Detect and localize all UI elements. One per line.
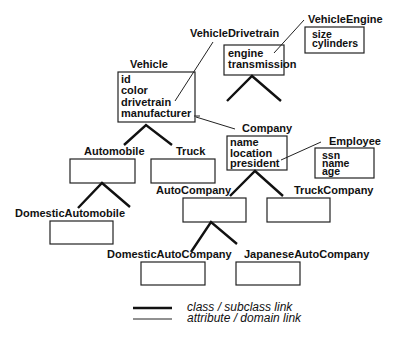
legend: class / subclass link attribute / domain… bbox=[133, 300, 302, 325]
class-label-auto-company: AutoCompany bbox=[156, 184, 232, 196]
subclass-link-automobile bbox=[78, 183, 130, 208]
class-vehicle: Vehicle id color drivetrain manufacturer bbox=[118, 58, 195, 122]
attr-president: president bbox=[230, 157, 280, 169]
class-truck: Truck bbox=[151, 145, 215, 183]
subclass-link-vehicle-drivetrain bbox=[227, 76, 281, 101]
class-box-japanese-auto-company bbox=[236, 262, 300, 285]
class-label-domestic-automobile: DomesticAutomobile bbox=[15, 207, 125, 219]
class-box-domestic-auto-company bbox=[141, 262, 205, 285]
attr-age: age bbox=[322, 165, 340, 177]
class-box-automobile bbox=[70, 159, 135, 183]
class-domestic-automobile: DomesticAutomobile bbox=[15, 207, 125, 244]
class-label-truck-company: TruckCompany bbox=[294, 184, 374, 196]
class-company: Company name location president bbox=[227, 122, 293, 170]
class-box-truck-company bbox=[267, 198, 330, 222]
attr-cylinders: cylinders bbox=[312, 37, 358, 49]
class-hierarchy-diagram: Vehicle id color drivetrain manufacturer… bbox=[0, 0, 399, 340]
class-label-vehicle-engine: VehicleEngine bbox=[308, 13, 383, 25]
class-automobile: Automobile bbox=[70, 145, 145, 183]
class-box-domestic-automobile bbox=[50, 221, 113, 244]
subclass-link-vehicle bbox=[124, 125, 172, 145]
class-label-automobile: Automobile bbox=[84, 145, 145, 157]
class-label-domestic-auto-company: DomesticAutoCompany bbox=[107, 248, 233, 260]
legend-thin-label: attribute / domain link bbox=[187, 311, 302, 325]
class-auto-company: AutoCompany bbox=[156, 184, 246, 222]
attr-color: color bbox=[121, 84, 149, 96]
class-box-truck bbox=[151, 159, 215, 183]
class-japanese-auto-company: JapaneseAutoCompany bbox=[236, 248, 370, 285]
class-vehicle-drivetrain: VehicleDrivetrain engine transmission bbox=[190, 27, 297, 75]
class-label-employee: Employee bbox=[329, 135, 381, 147]
class-box-auto-company bbox=[183, 198, 246, 222]
class-vehicle-engine: VehicleEngine size cylinders bbox=[305, 13, 383, 53]
class-label-vehicle-drivetrain: VehicleDrivetrain bbox=[190, 27, 280, 39]
class-label-japanese-auto-company: JapaneseAutoCompany bbox=[244, 248, 370, 260]
class-employee: Employee ssn name age bbox=[315, 135, 381, 178]
class-label-company: Company bbox=[242, 122, 293, 134]
class-label-vehicle: Vehicle bbox=[130, 58, 168, 70]
class-domestic-auto-company: DomesticAutoCompany bbox=[107, 248, 233, 285]
subclass-link-company bbox=[230, 171, 283, 196]
attr-manufacturer: manufacturer bbox=[121, 107, 192, 119]
attr-transmission: transmission bbox=[228, 58, 297, 70]
attr-link-manufacturer bbox=[196, 117, 235, 129]
class-truck-company: TruckCompany bbox=[267, 184, 374, 222]
class-label-truck: Truck bbox=[176, 145, 206, 157]
